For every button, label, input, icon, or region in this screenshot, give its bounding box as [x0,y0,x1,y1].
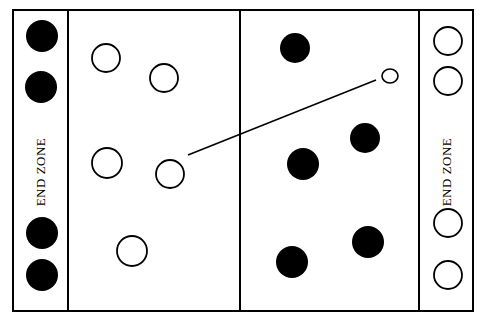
dark-player-icon [276,246,308,278]
light-player-icon [92,148,122,178]
dark-player-icon [26,20,58,52]
light-player-icon [434,27,462,55]
dark-team-players [25,20,384,291]
field-boundary [13,10,473,311]
field-lines [13,10,473,311]
disc-icon [382,69,398,83]
light-player-icon [434,261,462,289]
light-team-players [92,27,462,289]
dark-player-icon [26,259,58,291]
light-player-icon [117,236,147,266]
dark-player-icon [350,123,380,153]
pass-trajectory-line [188,80,376,155]
dark-player-icon [26,217,58,249]
right-end-zone-label: END ZONE [439,138,454,207]
light-player-icon [150,64,178,92]
light-player-icon [156,160,184,188]
light-player-icon [434,67,462,95]
dark-player-icon [25,71,57,103]
dark-player-icon [287,148,319,180]
field-diagram: END ZONE END ZONE [0,0,481,318]
dark-player-icon [352,226,384,258]
light-player-icon [434,209,462,237]
dark-player-icon [280,33,310,63]
light-player-icon [92,44,120,72]
left-end-zone-label: END ZONE [33,138,48,207]
